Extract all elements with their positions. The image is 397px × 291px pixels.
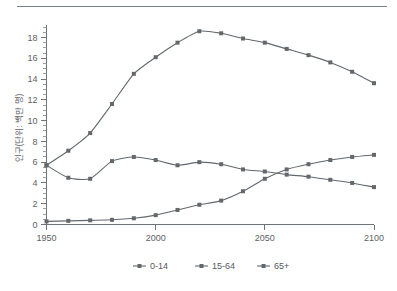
chart-canvas: 024681012141618 1950200020502100 인구(단위: …	[0, 0, 397, 291]
series-65plus	[45, 153, 377, 224]
data-point	[66, 219, 70, 223]
data-point	[132, 216, 136, 220]
chart-page: 024681012141618 1950200020502100 인구(단위: …	[0, 0, 397, 291]
data-point	[154, 213, 158, 217]
data-point	[197, 160, 201, 164]
y-axis: 024681012141618	[27, 25, 46, 230]
y-tick-label: 8	[32, 137, 37, 147]
data-point	[219, 162, 223, 166]
legend-label: 65+	[274, 261, 289, 271]
series-line-1	[47, 31, 375, 165]
series-line-2	[47, 155, 375, 222]
legend-label: 15-64	[212, 261, 235, 271]
y-tick-label: 2	[32, 199, 37, 209]
data-point	[372, 185, 376, 189]
y-tick-label: 10	[27, 116, 37, 126]
data-point	[263, 177, 267, 181]
data-point	[66, 176, 70, 180]
y-tick-label: 14	[27, 74, 37, 84]
legend-item-15-64[interactable]: 15-64	[195, 261, 235, 271]
y-tick-label: 4	[32, 178, 37, 188]
data-point	[197, 203, 201, 207]
data-point	[241, 167, 245, 171]
y-axis-title-text: 인구(단위: 백만 명)	[14, 93, 24, 162]
data-point	[350, 70, 354, 74]
chart-legend: 0-1415-6465+	[133, 261, 289, 271]
data-point	[285, 173, 289, 177]
data-point	[88, 131, 92, 135]
x-axis-ticks	[47, 225, 375, 230]
data-point	[45, 163, 49, 167]
data-point	[110, 159, 114, 163]
data-point	[328, 158, 332, 162]
population-line-chart: 024681012141618 1950200020502100 인구(단위: …	[0, 0, 397, 291]
data-point	[88, 218, 92, 222]
data-point	[285, 167, 289, 171]
data-point	[241, 37, 245, 41]
x-tick-label: 2000	[146, 233, 166, 243]
x-axis: 1950200020502100	[36, 225, 384, 243]
x-tick-label: 2100	[364, 233, 384, 243]
x-tick-label: 1950	[36, 233, 56, 243]
data-point	[176, 41, 180, 45]
data-point	[154, 55, 158, 59]
data-point	[66, 149, 70, 153]
data-point	[263, 170, 267, 174]
y-tick-label: 18	[27, 33, 37, 43]
series-15-64	[45, 29, 377, 167]
data-point	[110, 218, 114, 222]
data-point	[307, 175, 311, 179]
y-tick-label: 16	[27, 53, 37, 63]
data-point	[350, 155, 354, 159]
legend-item-65plus[interactable]: 65+	[257, 261, 289, 271]
data-point	[176, 208, 180, 212]
series-0-14	[45, 155, 377, 189]
data-point	[328, 178, 332, 182]
data-point	[132, 72, 136, 76]
data-point	[241, 189, 245, 193]
data-point	[263, 41, 267, 45]
data-point	[307, 162, 311, 166]
y-axis-ticks	[41, 27, 47, 224]
data-point	[350, 181, 354, 185]
data-point	[154, 158, 158, 162]
legend-swatch-marker	[138, 264, 142, 268]
x-tick-label: 2050	[255, 233, 275, 243]
data-point	[132, 155, 136, 159]
data-point	[219, 199, 223, 203]
y-tick-label: 6	[32, 157, 37, 167]
legend-label: 0-14	[150, 261, 168, 271]
legend-swatch-marker	[200, 264, 204, 268]
data-point	[372, 153, 376, 157]
data-point	[285, 47, 289, 51]
x-axis-tick-labels: 1950200020502100	[36, 233, 384, 243]
data-point	[372, 81, 376, 85]
data-point	[176, 163, 180, 167]
y-tick-label: 12	[27, 95, 37, 105]
data-point	[307, 53, 311, 57]
y-axis-title: 인구(단위: 백만 명)	[14, 93, 24, 162]
data-point	[219, 31, 223, 35]
chart-series-group	[45, 29, 377, 223]
data-point	[197, 29, 201, 33]
y-axis-tick-labels: 024681012141618	[27, 33, 37, 230]
data-point	[45, 219, 49, 223]
legend-item-0-14[interactable]: 0-14	[133, 261, 168, 271]
y-tick-label: 0	[32, 220, 37, 230]
data-point	[110, 102, 114, 106]
data-point	[328, 60, 332, 64]
legend-swatch-marker	[262, 264, 266, 268]
data-point	[88, 177, 92, 181]
